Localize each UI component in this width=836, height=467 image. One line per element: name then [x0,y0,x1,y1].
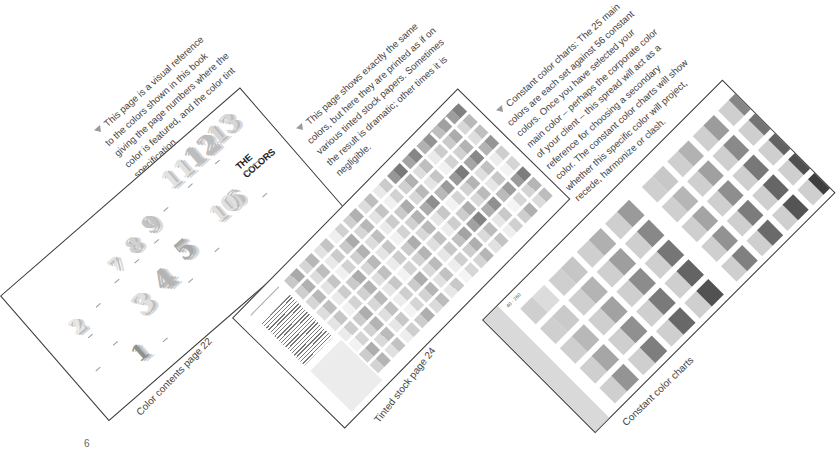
page-number-glyph: 9 [136,209,165,239]
corner-code: 40 · 260 [505,291,522,308]
spec-mark [113,341,118,346]
bullet-triangle-icon [296,123,306,133]
page-number-glyph: 7 [103,252,126,276]
page-number-glyph: 8 [120,231,146,258]
spec-mark [88,334,93,339]
bullet-triangle-icon [94,125,104,135]
spec-mark [163,207,168,212]
spec-mark [215,160,220,165]
page-number-glyph: 2 [63,313,89,340]
spread-heading: THE COLORS [233,128,288,180]
spec-mark [114,279,119,284]
spec-mark [163,337,168,342]
bullet-triangle-icon [496,105,506,115]
spec-mark [188,278,193,283]
spec-mark [154,239,159,244]
spec-mark [96,303,101,308]
page-number-glyph: 3 [125,285,161,323]
spec-mark [214,248,219,253]
page-number: 6 [84,438,90,449]
spec-mark [95,367,100,372]
spec-mark [262,193,267,198]
spec-mark [134,259,139,264]
page-number-glyph: 5 [168,232,201,267]
spec-mark [188,183,193,188]
page-number-glyph: 4 [146,261,182,299]
page-number-glyph: 1 [125,337,154,367]
